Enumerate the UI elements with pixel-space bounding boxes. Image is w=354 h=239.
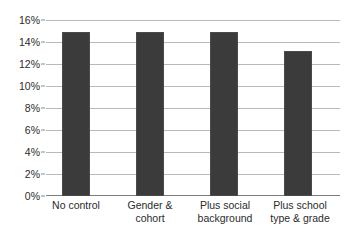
x-axis-label-no-control: No control xyxy=(40,199,112,212)
x-axis-label-line: cohort xyxy=(114,212,186,225)
x-axis-label-school-type-grade: Plus school type & grade xyxy=(260,199,340,224)
y-axis-tick-mark xyxy=(41,130,45,131)
bar-no-control[interactable] xyxy=(62,32,90,196)
y-axis-tick-mark xyxy=(41,42,45,43)
x-axis-tick-labels: No control Gender & cohort Plus social b… xyxy=(46,199,340,239)
y-axis-tick-label: 4% xyxy=(0,147,40,158)
y-axis-tick-mark xyxy=(41,152,45,153)
y-axis-tick-label: 12% xyxy=(0,59,40,70)
y-axis-tick-label: 14% xyxy=(0,37,40,48)
y-axis-tick-mark xyxy=(41,174,45,175)
x-axis-label-line: background xyxy=(186,212,264,225)
bar-series xyxy=(46,20,340,196)
y-axis-tick-mark xyxy=(41,108,45,109)
plot-area xyxy=(46,20,340,196)
y-axis-tick-labels: 16% 14% 12% 10% 8% 6% 4% 2% 0% xyxy=(0,20,40,196)
y-axis-tick-mark xyxy=(41,20,45,21)
x-axis-label-line: Plus social xyxy=(186,199,264,212)
x-axis-label-line: type & grade xyxy=(260,212,340,225)
y-axis-tick-label: 0% xyxy=(0,191,40,202)
x-axis-label-gender-cohort: Gender & cohort xyxy=(114,199,186,224)
y-axis-tick-label: 2% xyxy=(0,169,40,180)
bar-social-background[interactable] xyxy=(210,32,238,196)
y-axis-tick-label: 6% xyxy=(0,125,40,136)
y-axis-tick-mark xyxy=(41,196,45,197)
y-axis-tick-label: 16% xyxy=(0,15,40,26)
bar-gender-cohort[interactable] xyxy=(136,32,164,196)
bar-school-type-grade[interactable] xyxy=(284,51,312,196)
x-axis-label-line: No control xyxy=(40,199,112,212)
x-axis-label-line: Gender & xyxy=(114,199,186,212)
y-axis-tick-mark xyxy=(41,86,45,87)
y-axis-tick-label: 8% xyxy=(0,103,40,114)
y-axis-tick-mark xyxy=(41,64,45,65)
y-axis-tick-label: 10% xyxy=(0,81,40,92)
x-axis-label-line: Plus school xyxy=(260,199,340,212)
x-axis-label-social-background: Plus social background xyxy=(186,199,264,224)
bar-chart: 16% 14% 12% 10% 8% 6% 4% 2% 0% xyxy=(0,0,354,239)
